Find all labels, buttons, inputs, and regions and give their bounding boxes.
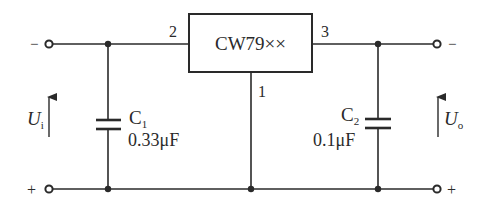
junction-dot	[375, 41, 381, 47]
capacitor-c2	[365, 44, 391, 189]
output-bottom-polarity: +	[447, 181, 456, 198]
input-bottom-polarity: +	[27, 181, 36, 198]
input-top-polarity: −	[30, 36, 38, 52]
junction-dot	[105, 41, 111, 47]
output-top-polarity: −	[448, 36, 456, 52]
junction-dot	[248, 186, 254, 192]
pin-2-label: 2	[169, 23, 177, 40]
input-terminal-top	[45, 40, 52, 47]
c2-value: 0.1μF	[313, 130, 355, 150]
regulator-label: CW79××	[215, 33, 286, 54]
circuit-diagram: CW79×× 2 3 1 C1 0.33μF C2 0.1μF − + − +	[0, 0, 480, 215]
capacitor-c1	[96, 44, 121, 189]
output-terminal-top	[433, 40, 440, 47]
output-voltage-label: Uo	[444, 108, 464, 131]
pin-3-label: 3	[321, 23, 329, 40]
junction-dot	[105, 186, 111, 192]
c1-value: 0.33μF	[128, 130, 179, 150]
output-terminal-bottom	[433, 185, 440, 192]
pin-1-label: 1	[258, 83, 266, 100]
input-voltage-label: Ui	[27, 108, 44, 131]
c1-label: C1	[129, 107, 147, 130]
c2-label: C2	[341, 104, 359, 127]
junction-dot	[375, 186, 381, 192]
input-terminal-bottom	[45, 185, 52, 192]
